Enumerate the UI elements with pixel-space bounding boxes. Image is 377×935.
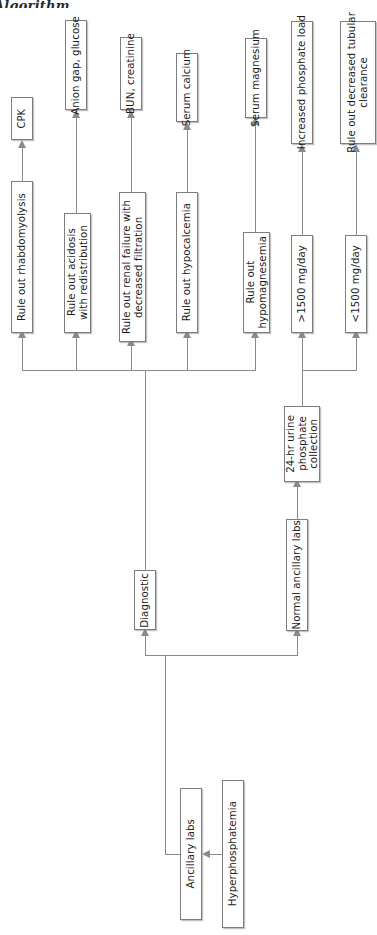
node-label: Diagnostic (139, 573, 151, 628)
node-label: CPK (16, 109, 27, 128)
node-rule-out-hypocalcemia: Rule out hypocalcemia (176, 192, 198, 333)
node-label: <1500 mg/day (350, 245, 362, 322)
node-cpk: CPK (11, 97, 33, 140)
node-ancillary-labs: Ancillary labs (180, 788, 202, 920)
node-serum-magnesium: Serum magnesium (245, 38, 267, 118)
node-label: Rule out renal failure with decreased fi… (121, 200, 144, 334)
node-label: BUN, creatinine (125, 33, 137, 114)
node-label: >1500 mg/day (296, 245, 308, 322)
node-rule-out-renal-failure: Rule out renal failure with decreased fi… (119, 192, 146, 342)
node-anion-gap-glucose: Anion gap, glucose (65, 20, 87, 110)
node-lt-1500-mg-day: <1500 mg/day (345, 235, 367, 333)
node-label: Normal ancillary labs (291, 520, 303, 630)
node-rule-out-acidosis: Rule out acidosis with redistribution (64, 213, 91, 333)
node-label: Rule out decreased tubular clearance (346, 12, 369, 153)
node-label: Rule out acidosis with redistribution (66, 225, 89, 320)
node-label: 24-hr urine phosphate collection (285, 415, 320, 473)
node-label: Rule out hypocalcemia (181, 203, 193, 321)
flowchart-canvas: Algorithm Hyperphosphatemia Ancillary la… (0, 0, 377, 935)
node-label: Anion gap, glucose (70, 16, 82, 115)
node-label: Serum magnesium (250, 29, 262, 127)
node-rule-out-rhabdomyolysis: Rule out rhabdomyolysis (11, 181, 33, 333)
node-label: Hyperphosphatemia (227, 801, 239, 906)
node-label: Serum calcium (181, 49, 193, 126)
node-gt-1500-mg-day: >1500 mg/day (291, 235, 313, 333)
node-serum-calcium: Serum calcium (176, 53, 198, 122)
node-label: Increased phosphate load (296, 15, 308, 149)
node-label: Rule out rhabdomyolysis (16, 193, 28, 321)
figure-caption: Algorithm (0, 0, 70, 13)
node-hyperphosphatemia: Hyperphosphatemia (222, 780, 244, 928)
node-increased-phosphate-load: Increased phosphate load (291, 21, 313, 144)
node-24hr-urine-phosphate-collection: 24-hr urine phosphate collection (284, 406, 320, 482)
node-bun-creatinine: BUN, creatinine (120, 37, 142, 110)
node-rule-out-hypomagnesemia: Rule out hypomagnesemia (243, 232, 270, 333)
node-label: Ancillary labs (185, 819, 197, 888)
node-label: Rule out hypomagnesemia (245, 236, 268, 329)
node-diagnostic: Diagnostic (134, 570, 156, 630)
node-rule-out-decreased-tubular-clearance: Rule out decreased tubular clearance (340, 21, 376, 144)
node-normal-ancillary-labs: Normal ancillary labs (286, 519, 308, 631)
